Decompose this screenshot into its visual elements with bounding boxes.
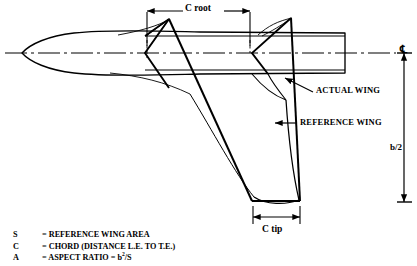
legend-definition: = CHORD (DISTANCE L.E. TO T.E.) [42, 241, 175, 253]
legend-block: S = REFERENCE WING AREA C = CHORD (DISTA… [13, 229, 175, 264]
c-root-label: C root [185, 4, 211, 14]
actual-wing-label: ACTUAL WING [316, 86, 380, 95]
legend-definition: = REFERENCE WING AREA [42, 229, 150, 241]
legend-definition-text: = ASPECT RATIO = b [42, 253, 122, 262]
c-root-dimension [147, 11, 250, 58]
centerline-symbol-icon: ℄ [400, 44, 407, 55]
legend-definition-suffix: /S [125, 253, 132, 262]
wing-planform-diagram: C root C tip ACTUAL WING REFERENCE WING … [0, 0, 417, 266]
half-span-dimension [397, 53, 412, 202]
reference-wing-label: REFERENCE WING [300, 118, 382, 127]
legend-symbol: S [13, 229, 42, 241]
reference-wing-outline [145, 18, 345, 201]
legend-symbol: C [13, 241, 42, 253]
actual-wing-leader [285, 78, 313, 92]
c-tip-label: C tip [262, 225, 282, 235]
legend-definition: = ASPECT RATIO = b2/S [42, 252, 132, 264]
c-tip-dimension [253, 206, 300, 224]
legend-symbol: A [13, 252, 42, 264]
half-span-label: b/2 [390, 143, 402, 152]
legend-row: C = CHORD (DISTANCE L.E. TO T.E.) [13, 241, 175, 253]
legend-definition-text: = REFERENCE WING AREA [42, 230, 150, 239]
diagram-drawing [0, 0, 417, 266]
actual-wing-outline [110, 18, 299, 203]
legend-row: S = REFERENCE WING AREA [13, 229, 175, 241]
legend-definition-text: = CHORD (DISTANCE L.E. TO T.E.) [42, 242, 175, 251]
legend-row: A = ASPECT RATIO = b2/S [13, 252, 175, 264]
